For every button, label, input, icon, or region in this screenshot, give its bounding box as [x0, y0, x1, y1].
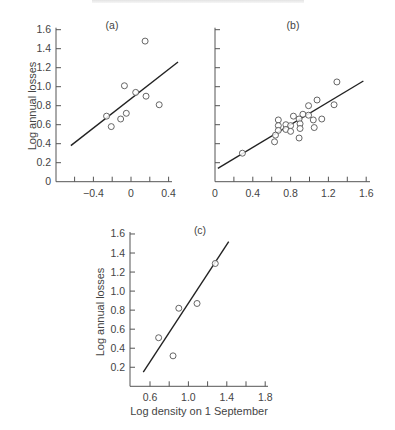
data-point-marker: [156, 102, 162, 108]
data-point-marker: [306, 112, 312, 118]
x-tick-label: 1.8: [258, 391, 273, 403]
x-tick-label: −0.4: [83, 187, 104, 199]
data-point-marker: [311, 125, 317, 131]
x-axis-title: Log density on 1 September: [130, 405, 268, 417]
data-point-marker: [156, 335, 162, 341]
data-point-marker: [239, 150, 245, 156]
data-point-marker: [121, 83, 127, 89]
data-point-marker: [170, 353, 176, 359]
y-tick-label: 1.4: [110, 247, 125, 259]
data-point-marker: [104, 113, 110, 119]
x-tick-label: 0.8: [283, 187, 298, 199]
y-tick-label: 1.6: [110, 227, 125, 239]
y-tick-label: 0.4: [36, 137, 51, 149]
x-tick-label: 1.6: [359, 187, 374, 199]
x-tick-label: 0.6: [143, 391, 158, 403]
data-point-marker: [275, 117, 281, 123]
x-tick-label: 0.4: [245, 187, 260, 199]
data-point-marker: [212, 260, 218, 266]
data-point-marker: [297, 126, 303, 132]
x-tick-label: 0: [128, 187, 134, 199]
y-tick-label: 0.8: [36, 99, 51, 111]
data-point-marker: [272, 139, 278, 145]
y-tick-label: 1.0: [36, 80, 51, 92]
y-tick-label: 0.6: [110, 323, 125, 335]
x-tick-label: 1.4: [219, 391, 234, 403]
panel-c: 0.20.40.60.81.01.21.41.60.61.01.41.8(c)L…: [94, 224, 273, 417]
y-tick-label: 1.6: [36, 23, 51, 35]
data-point-marker: [314, 97, 320, 103]
x-tick-label: 0: [212, 187, 218, 199]
figure: 00.20.40.60.81.01.21.41.6−0.400.4(a)Log …: [0, 0, 395, 430]
data-point-marker: [331, 102, 337, 108]
data-point-marker: [133, 89, 139, 95]
y-tick-label: 1.2: [36, 61, 51, 73]
y-tick-label: 0.2: [36, 156, 51, 168]
y-tick-label: 0.8: [110, 304, 125, 316]
panel-label: (b): [287, 19, 300, 31]
panel-b: 00.40.81.21.6(b): [212, 19, 374, 199]
y-tick-label: 0.2: [110, 361, 125, 373]
data-point-marker: [334, 79, 340, 85]
y-axis-title: Log annual losses: [94, 267, 106, 356]
data-point-marker: [319, 116, 325, 122]
data-point-marker: [296, 135, 302, 141]
data-point-marker: [108, 124, 114, 130]
y-tick-label: 1.2: [110, 266, 125, 278]
data-point-marker: [288, 128, 294, 134]
data-point-marker: [272, 132, 278, 138]
y-tick-label: 1.4: [36, 42, 51, 54]
panel-a: 00.20.40.60.81.01.21.41.6−0.400.4(a)Log …: [26, 19, 178, 199]
x-tick-label: 0.4: [161, 187, 176, 199]
x-tick-label: 1.2: [321, 187, 336, 199]
data-point-marker: [123, 110, 129, 116]
data-point-marker: [143, 93, 149, 99]
panel-label: (a): [106, 19, 119, 31]
data-point-marker: [194, 300, 200, 306]
y-tick-label: 0.6: [36, 118, 51, 130]
y-tick-label: 0.4: [110, 342, 125, 354]
x-tick-label: 1.0: [181, 391, 196, 403]
panel-label: (c): [194, 224, 206, 236]
data-point-marker: [310, 117, 316, 123]
y-tick-label: 1.0: [110, 285, 125, 297]
data-point-marker: [142, 38, 148, 44]
y-tick-label: 0: [45, 175, 51, 187]
data-point-marker: [290, 113, 296, 119]
data-point-marker: [176, 305, 182, 311]
data-point-marker: [118, 116, 124, 122]
data-point-marker: [306, 103, 312, 109]
y-axis-title: Log annual losses: [26, 61, 38, 150]
